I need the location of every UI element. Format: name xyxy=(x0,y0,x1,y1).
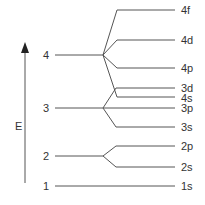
shell-label-4: 4 xyxy=(43,50,49,61)
energy-level-diagram: E 4 3 2 1 4f 4d 4p 3d 4s 3p 3s 2p 2s 1s xyxy=(0,0,205,205)
arrow-head-icon xyxy=(21,42,29,53)
orbital-label-3s: 3s xyxy=(181,122,193,133)
shell-label-2: 2 xyxy=(43,151,49,162)
orbital-label-4p: 4p xyxy=(181,63,193,74)
energy-axis-label: E xyxy=(15,121,22,132)
shell-label-1: 1 xyxy=(43,181,49,192)
orbital-label-2p: 2p xyxy=(181,141,193,152)
shell-label-3: 3 xyxy=(43,103,49,114)
diagram-lines xyxy=(0,0,205,205)
orbital-label-1s: 1s xyxy=(181,181,193,192)
orbital-label-3p: 3p xyxy=(181,103,193,114)
orbital-label-4f: 4f xyxy=(181,5,190,16)
orbital-label-4d: 4d xyxy=(181,35,193,46)
orbital-label-2s: 2s xyxy=(181,162,193,173)
